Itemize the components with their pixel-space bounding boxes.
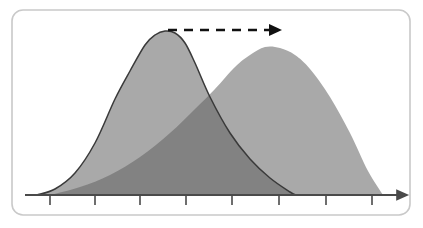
distribution-chart-svg — [0, 0, 423, 228]
figure-container: Overlapping distribution curves with rig… — [0, 0, 423, 228]
